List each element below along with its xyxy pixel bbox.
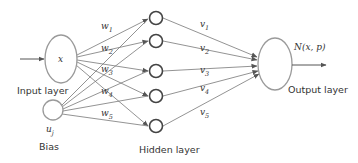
bias-node-label: uj	[46, 124, 54, 137]
weight-label-v2: v2	[200, 43, 209, 56]
neural-network-diagram: x Input layer uj Bias Hidden layer w1 w2…	[0, 0, 358, 163]
weight-label-v1: v1	[200, 19, 209, 32]
input-node-label: x	[58, 54, 63, 64]
hidden-node-1	[150, 12, 163, 25]
weight-label-w3: w3	[101, 64, 113, 77]
hidden-nodes	[150, 12, 163, 133]
weight-label-v3: v3	[200, 65, 209, 78]
weight-label-v5: v5	[200, 107, 209, 120]
weight-label-w2: w2	[101, 43, 113, 56]
output-node-label: N(x, p)	[293, 42, 326, 52]
hidden-node-3	[150, 65, 163, 78]
weight-label-w1: w1	[101, 21, 113, 34]
hidden-node-4	[150, 90, 163, 103]
weight-label-w5: w5	[101, 108, 113, 121]
output-node	[258, 38, 292, 90]
input-layer-caption: Input layer	[17, 85, 69, 96]
bias-node	[43, 100, 63, 120]
hidden-node-2	[150, 35, 163, 48]
hidden-layer-caption: Hidden layer	[139, 144, 200, 155]
hidden-node-5	[150, 120, 163, 133]
weight-label-w4: w4	[101, 86, 113, 99]
output-layer-caption: Output layer	[288, 84, 348, 95]
hidden-to-output-edges	[163, 18, 259, 126]
bias-caption: Bias	[39, 141, 59, 152]
weight-label-v4: v4	[200, 83, 209, 96]
